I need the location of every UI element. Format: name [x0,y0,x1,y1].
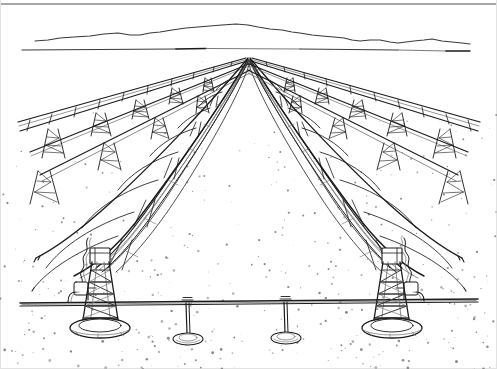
paper-background [0,0,497,369]
illustration-canvas: Parabolic Trough Solar Collector Field [0,0,497,369]
parabolic-trough-solar-field-drawing [0,0,497,369]
